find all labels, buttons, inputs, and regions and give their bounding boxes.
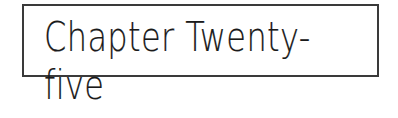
chapter-heading: Chapter Twenty-five: [44, 0, 354, 118]
chapter-title-text: Chapter Twenty-five: [44, 13, 354, 118]
